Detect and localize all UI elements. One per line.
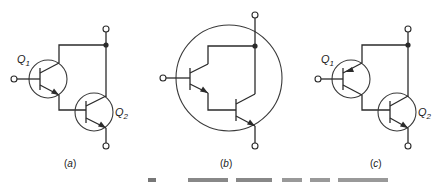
terminal-input-b	[160, 75, 166, 81]
transistor-q2-b	[236, 94, 255, 126]
label-q1-c: Q1	[321, 53, 334, 68]
caption-b: (b)	[220, 158, 232, 169]
label-q2-c: Q2	[418, 106, 432, 121]
q1-collector-wire-a	[59, 45, 106, 63]
terminal-top-c	[405, 26, 411, 32]
q1-emitter-to-q2-base-b	[208, 93, 236, 110]
darlington-diagram: Q1 Q2 (a) (b)	[0, 0, 441, 182]
terminal-emitter-b	[252, 143, 258, 149]
transistor-q2-c	[378, 93, 416, 131]
truncated-figure-caption	[148, 178, 388, 182]
label-q2-a: Q2	[115, 106, 129, 121]
caption-a: (a)	[64, 158, 76, 169]
terminal-emitter-a	[103, 143, 109, 149]
panel-c: Q1 Q2 (c)	[315, 26, 432, 169]
terminal-bottom-c	[405, 143, 411, 149]
terminal-input-c	[315, 76, 321, 82]
panel-b: (b)	[160, 12, 282, 169]
terminal-collector-b	[252, 12, 258, 18]
label-q1-a: Q1	[17, 53, 30, 68]
transistor-q1-c	[321, 60, 370, 98]
package-envelope-b	[176, 25, 282, 131]
q1-collector-wire-b	[208, 46, 255, 64]
panel-a: Q1 Q2 (a)	[11, 26, 129, 169]
terminal-input-a	[11, 76, 17, 82]
terminal-collector-a	[103, 26, 109, 32]
caption-c: (c)	[370, 158, 382, 169]
transistor-q2-a	[75, 93, 113, 131]
transistor-q1-b	[166, 64, 208, 93]
transistor-q1-a	[17, 60, 67, 98]
q1-emitter-wire-c	[362, 45, 408, 63]
